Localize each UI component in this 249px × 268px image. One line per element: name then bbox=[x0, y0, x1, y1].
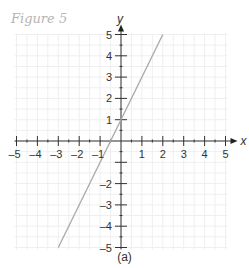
y-tick-label: –4 bbox=[100, 220, 112, 232]
y-tick-label: 1 bbox=[106, 114, 112, 126]
y-tick-label: –3 bbox=[100, 199, 112, 211]
x-tick-label: –5 bbox=[8, 148, 20, 160]
x-tick-label: –2 bbox=[71, 148, 83, 160]
x-tick-label: 3 bbox=[181, 148, 187, 160]
x-tick-label: –1 bbox=[92, 148, 104, 160]
coordinate-plane: –5–4–3–2–112345–5–4–3–212345xy bbox=[0, 0, 249, 268]
x-tick-label: –4 bbox=[29, 148, 41, 160]
x-tick-label: 4 bbox=[202, 148, 208, 160]
y-tick-label: –2 bbox=[100, 178, 112, 190]
y-tick-label: 2 bbox=[106, 92, 112, 104]
x-tick-label: –3 bbox=[50, 148, 62, 160]
x-tick-label: 2 bbox=[160, 148, 166, 160]
x-tick-label: 1 bbox=[139, 148, 145, 160]
tick-labels: –5–4–3–2–112345–5–4–3–212345xy bbox=[8, 12, 247, 254]
y-tick-label: 4 bbox=[106, 50, 112, 62]
x-axis-label: x bbox=[240, 134, 248, 148]
x-tick-label: 5 bbox=[222, 148, 228, 160]
figure-caption: (a) bbox=[0, 250, 249, 264]
y-tick-label: 3 bbox=[106, 71, 112, 83]
y-axis-label: y bbox=[116, 12, 124, 26]
y-tick-label: 5 bbox=[106, 29, 112, 41]
